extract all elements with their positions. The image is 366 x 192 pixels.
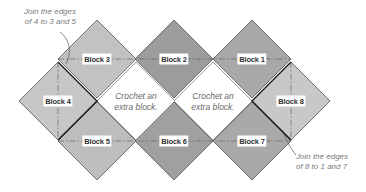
join-note-line1: Join the edges xyxy=(16,7,76,17)
block-label-5: Block 5 xyxy=(82,136,111,147)
block-label-2: Block 2 xyxy=(159,54,188,65)
block-label-6: Block 6 xyxy=(159,136,188,147)
join-note-line1: Join the edges xyxy=(296,152,348,162)
join-note-line2: of 8 to 1 and 7 xyxy=(296,162,348,172)
block-label-1: Block 1 xyxy=(237,54,266,65)
join-note-bottom-right: Join the edges of 8 to 1 and 7 xyxy=(296,152,348,172)
block-label-7: Block 7 xyxy=(237,136,266,147)
block-label-3: Block 3 xyxy=(82,54,111,65)
extra-block-note-line2: extra block. xyxy=(191,101,234,112)
extra-block-note-line1: Crochet an xyxy=(114,91,157,102)
extra-block-note-line2: extra block. xyxy=(114,101,157,112)
join-note-line2: of 4 to 3 and 5 xyxy=(16,17,76,27)
join-note-top-left: Join the edges of 4 to 3 and 5 xyxy=(16,7,76,27)
extra-block-note-line1: Crochet an xyxy=(191,91,234,102)
block-label-8: Block 8 xyxy=(276,96,305,107)
extra-block-note-right: Crochet an extra block. xyxy=(191,91,234,112)
block-label-4: Block 4 xyxy=(43,96,72,107)
extra-block-note-left: Crochet an extra block. xyxy=(114,91,157,112)
